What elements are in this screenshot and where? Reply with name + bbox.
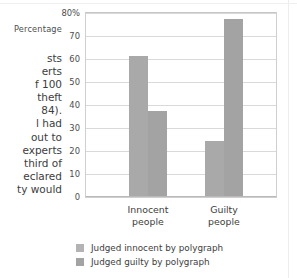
body-text-column: stsertsf 100 theft84).l hadout toexperts… (0, 52, 62, 196)
body-text-line: 84). (0, 104, 62, 117)
gridline (86, 13, 276, 14)
bar-chart: 80%706050403020100InnocentpeopleGuiltype… (85, 12, 277, 198)
x-axis-category-label: Innocentpeople (128, 204, 169, 227)
y-axis-tick-label: 70 (69, 31, 80, 41)
body-text-line: ty would (0, 183, 62, 196)
bar (129, 56, 148, 196)
body-text-line: third of (0, 157, 62, 170)
legend-label: Judged guilty by polygraph (91, 257, 210, 267)
y-axis-tick-label: 10 (69, 169, 80, 179)
legend-swatch-icon (76, 258, 84, 266)
gridline (86, 36, 276, 37)
body-text-line: theft (0, 91, 62, 104)
body-text-line: eclared (0, 170, 62, 183)
bar (224, 19, 243, 196)
chart-legend: Judged innocent by polygraph Judged guil… (76, 241, 223, 269)
gridline (86, 128, 276, 129)
gridline (86, 82, 276, 83)
x-axis-category-label-line: people (208, 216, 240, 228)
x-axis-baseline (86, 196, 276, 197)
legend-item-judged-guilty: Judged guilty by polygraph (76, 255, 223, 269)
figure-page: stsertsf 100 theft84).l hadout toexperts… (0, 0, 297, 278)
legend-label: Judged innocent by polygraph (91, 243, 223, 253)
body-text-line: experts (0, 144, 62, 157)
y-axis-tick-label: 60 (69, 54, 80, 64)
body-text-line: l had (0, 117, 62, 130)
body-text-line: f 100 (0, 78, 62, 91)
page-edge-rule-top (0, 3, 297, 4)
x-axis-category-label: Guiltypeople (208, 204, 240, 227)
bar (205, 141, 224, 196)
y-axis-tick-label: 30 (69, 123, 80, 133)
y-axis-tick-label: 0 (75, 192, 80, 202)
gridline (86, 151, 276, 152)
y-axis-tick-label: 50 (69, 77, 80, 87)
gridline (86, 174, 276, 175)
body-text-line: erts (0, 65, 62, 78)
legend-swatch-icon (76, 244, 84, 252)
y-axis-title: Percentage (0, 24, 62, 34)
x-axis-category-label-line: people (128, 216, 169, 228)
y-axis-tick-label: 40 (69, 100, 80, 110)
gridline (86, 59, 276, 60)
x-axis-category-label-line: Innocent (128, 204, 169, 216)
y-axis-tick-label: 20 (69, 146, 80, 156)
body-text-line: out to (0, 131, 62, 144)
page-edge-rule-right (288, 0, 289, 278)
body-text-line: sts (0, 52, 62, 65)
gridline (86, 105, 276, 106)
plot-area: 80%706050403020100InnocentpeopleGuiltype… (85, 12, 277, 198)
legend-item-judged-innocent: Judged innocent by polygraph (76, 241, 223, 255)
y-axis-tick-label: 80% (61, 8, 80, 18)
x-axis-category-label-line: Guilty (208, 204, 240, 216)
bar (148, 111, 167, 196)
